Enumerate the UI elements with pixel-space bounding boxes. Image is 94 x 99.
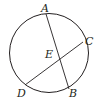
circle-chords-diagram: A C E D B bbox=[0, 0, 94, 99]
label-b: B bbox=[68, 87, 77, 99]
label-d: D bbox=[16, 87, 26, 99]
label-a: A bbox=[40, 2, 49, 15]
label-e: E bbox=[44, 48, 53, 61]
chord-cd bbox=[25, 42, 83, 85]
label-c: C bbox=[85, 35, 94, 48]
